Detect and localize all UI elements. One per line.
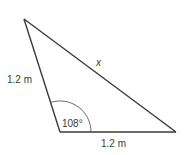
triangle-diagram: 1.2 m x 108° 1.2 m <box>0 0 186 155</box>
label-angle: 108° <box>62 119 83 129</box>
side-hypotenuse <box>24 19 176 132</box>
label-bottom-side: 1.2 m <box>101 139 126 149</box>
label-hypotenuse-x: x <box>96 58 101 68</box>
label-left-side: 1.2 m <box>7 75 32 85</box>
